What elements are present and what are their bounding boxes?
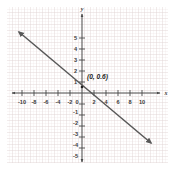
y-intercept-point [81,86,84,89]
x-tick-label: -10 [18,99,26,105]
x-tick-label: 10 [139,99,145,105]
y-tick-label: -4 [73,142,79,148]
origin-label: 0 [75,99,78,105]
x-tick-label: -4 [56,99,62,105]
y-tick-label: -1 [73,109,78,115]
y-tick-label: -5 [73,153,78,159]
grid-background [7,7,168,163]
y-tick-label: -2 [73,120,78,126]
x-tick-label: -6 [44,99,49,105]
x-tick-label: -2 [68,99,73,105]
x-tick-label: 8 [128,99,131,105]
x-tick-label: 2 [92,99,95,105]
y-tick-label: -3 [73,131,78,137]
y-tick-label: 5 [74,35,77,41]
x-tick-label: -8 [32,99,37,105]
point-label-y-intercept: (0, 0.6) [87,73,108,81]
y-tick-label: 3 [74,57,77,63]
y-tick-label: 2 [74,68,77,74]
x-axis-name: x [164,90,168,96]
y-axis-name: y [80,6,84,12]
x-tick-label: 6 [116,99,119,105]
graph-figure: -10 -8 -6 -4 -2 2 4 6 8 10 0 5 4 3 2 1 -… [0,0,175,169]
coordinate-plane-chart: -10 -8 -6 -4 -2 2 4 6 8 10 0 5 4 3 2 1 -… [0,0,175,169]
